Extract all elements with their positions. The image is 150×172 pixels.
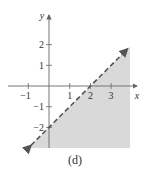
y-axis-label: y — [39, 10, 45, 21]
x-tick-label: 2 — [88, 90, 93, 101]
x-tick-label: 3 — [109, 90, 114, 101]
y-tick-label: −1 — [33, 101, 44, 112]
inequality-graph: −1 1 2 3 2 1 −1 −2 x y — [0, 0, 150, 172]
y-tick-label: 1 — [39, 60, 44, 71]
y-tick-label: −2 — [33, 122, 44, 133]
y-tick-label: 2 — [39, 39, 44, 50]
figure-caption: (d) — [0, 153, 150, 168]
x-tick-label: 1 — [67, 90, 72, 101]
x-axis-label: x — [134, 90, 140, 101]
x-tick-label: −1 — [20, 90, 31, 101]
